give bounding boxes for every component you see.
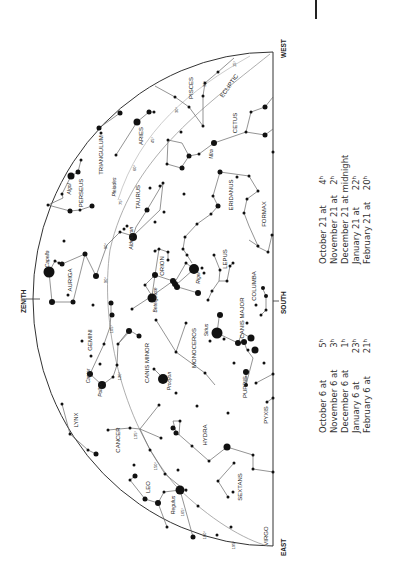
direction-label-south: SOUTH: [280, 291, 287, 314]
ecliptic-degree-label: 165°: [180, 507, 185, 516]
schedule-time: 4ʰ: [318, 176, 328, 185]
schedule-date: November 21 at: [329, 194, 339, 264]
ecliptic-line: [108, 54, 270, 546]
constellation-label: ORION: [159, 256, 165, 276]
constellation-label: LYNX: [73, 412, 79, 427]
ecliptic-degree-label: 30°: [202, 81, 207, 87]
constellation-label: HYDRA: [202, 424, 208, 445]
ecliptic-degree-label: 15°: [232, 61, 237, 67]
schedule-time: 22ʰ: [351, 176, 361, 190]
constellation-label: TAURUS: [135, 185, 141, 209]
schedule-time: 5ʰ: [318, 339, 328, 348]
ecliptic-degree-label: 45°: [150, 137, 155, 143]
constellation-label: CANCER: [115, 427, 121, 453]
star-chart-page: PISCESCETUSTRIANGULUMARIESPERSEUSTAURUSE…: [0, 0, 409, 565]
ecliptic-degree-label: 90°: [103, 277, 108, 283]
schedule-time: 21ʰ: [362, 339, 372, 353]
schedule-date: February 21 at: [362, 201, 372, 264]
schedule-date: October 21 at: [318, 205, 328, 264]
constellation-label: CANIS MINOR: [144, 342, 150, 383]
ecliptic-label: ECLIPTIC: [219, 72, 240, 98]
constellation-label: COLUMBA: [251, 271, 257, 301]
constellation-label: FORMAX: [261, 201, 267, 227]
ecliptic-degree-label: 30°: [174, 107, 179, 113]
star-name-label: Procyon: [166, 372, 172, 391]
schedule-date: January 6 at: [351, 381, 361, 434]
constellation-label: PYXIS: [263, 406, 269, 424]
schedule-date: October 6 at: [318, 379, 328, 433]
star-name-label: Betelgeuse: [152, 287, 158, 312]
star-name-label: Aldebaran: [128, 226, 134, 250]
star-chart-svg: PISCESCETUSTRIANGULUMARIESPERSEUSTAURUSE…: [0, 0, 409, 565]
star-name-label: Mira: [208, 149, 214, 159]
star-name-label: Rigel: [195, 271, 201, 283]
schedule-time: 1ʰ: [340, 339, 350, 348]
star-name-label: Regulus: [170, 495, 176, 514]
constellation-label: TRIANGULUM: [98, 135, 104, 175]
constellation-label: CETUS: [232, 113, 238, 133]
observation-schedule: October 6 at5ʰNovember 6 at3ʰDecember 6 …: [318, 154, 372, 434]
constellation-label: LEPUS: [222, 249, 228, 269]
constellation-label: LEO: [145, 481, 151, 493]
direction-label-zenith: ZENITH: [20, 289, 27, 313]
ecliptic-degree-label: 135°: [133, 430, 138, 439]
direction-label-west: WEST: [280, 39, 287, 58]
ecliptic-degree-label: 75°: [118, 199, 123, 205]
star-name-label: Sirius: [203, 323, 209, 336]
schedule-date: December 6 at: [340, 369, 350, 433]
ecliptic-degree-label: 150°: [153, 461, 158, 470]
ecliptic-degree-label: 60°: [132, 165, 137, 171]
constellation-label: PUPPIS: [242, 376, 248, 398]
constellation-label: ARIES: [138, 127, 144, 145]
constellation-label: SEXTANS: [237, 473, 243, 501]
constellation-label: ERIDANUS: [228, 179, 234, 210]
constellation-label: MONOCEROS: [191, 328, 197, 368]
constellation-label: CANIS MAJOR: [239, 297, 245, 339]
schedule-time: 23ʰ: [351, 339, 361, 353]
constellation-label: PERSEUS: [78, 179, 84, 208]
schedule-time: 20ʰ: [362, 176, 372, 190]
constellation-label: PISCES: [188, 77, 194, 99]
ecliptic-degree-label: 120°: [117, 371, 122, 380]
star-name-label: Castor: [85, 368, 91, 383]
constellation-label: GEMINI: [87, 329, 93, 351]
ecliptic-degree-labels: 15°30°30°45°60°75°90°90°105°120°135°150°…: [103, 61, 237, 550]
ecliptic-degree-label: 180°: [202, 530, 207, 539]
schedule-date: November 6 at: [329, 369, 339, 433]
schedule-time: 2ʰ: [329, 176, 339, 185]
schedule-date: February 6 at: [362, 375, 372, 433]
ecliptic-degree-label: 90°: [103, 243, 108, 249]
star-name-label: Pleiades: [111, 177, 117, 197]
star-name-label: Capella: [44, 250, 50, 267]
star-name-label: Algol: [66, 183, 72, 196]
star-name-label: Pollux: [97, 383, 103, 397]
schedule-time: 3ʰ: [329, 339, 339, 348]
ecliptic-degree-label: 105°: [109, 324, 114, 333]
constellation-label: VIRGO: [263, 526, 269, 546]
constellation-label: AURIGA: [67, 268, 73, 291]
schedule-date: December 21 at midnight: [340, 154, 350, 264]
schedule-date: January 21 at: [351, 206, 361, 265]
direction-label-east: EAST: [280, 539, 287, 556]
ecliptic-degree-label: 195°: [231, 540, 236, 549]
